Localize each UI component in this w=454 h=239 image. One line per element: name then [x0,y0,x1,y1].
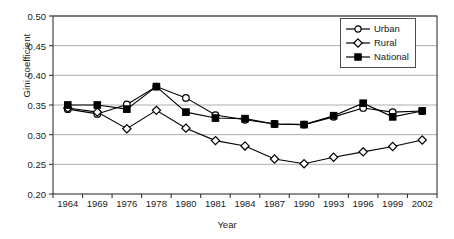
legend-label-urban: Urban [374,23,400,35]
x-axis-title: Year [0,219,454,230]
x-axis-tick-label: 1990 [293,198,314,209]
x-axis-tick-label: 1984 [234,198,255,209]
legend-item-rural: Rural [345,36,409,50]
legend-key-filled-square-icon [345,51,371,63]
x-axis-tick-label: 1996 [353,198,374,209]
x-axis-tick-label: 1978 [146,198,167,209]
legend-item-urban: Urban [345,22,409,36]
legend-label-rural: Rural [374,37,397,49]
x-axis-tick-label: 2002 [412,198,433,209]
legend-key-open-circle-icon [345,23,371,35]
x-axis-tick-label: 1987 [264,198,285,209]
x-axis-tick-label: 1993 [323,198,344,209]
legend-label-national: National [374,51,409,63]
legend-key-open-diamond-icon [345,37,371,49]
x-axis-tick-label: 1980 [175,198,196,209]
legend-item-national: National [345,50,409,64]
x-axis-tick-label: 1981 [205,198,226,209]
x-axis-tick-label: 1976 [116,198,137,209]
x-axis-tick-label: 1964 [57,198,78,209]
chart-figure: Gini coefficient 0.500.450.400.350.300.2… [0,0,454,239]
x-axis-tick-label: 1999 [382,198,403,209]
x-axis-tick-label: 1969 [87,198,108,209]
chart-legend: Urban Rural National [340,18,416,68]
